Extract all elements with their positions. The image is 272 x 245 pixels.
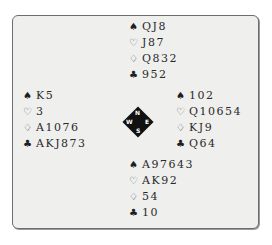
east-clubs: ♣Q64 (176, 136, 242, 152)
compass-east-label: E (145, 119, 149, 125)
heart-icon: ♡ (23, 104, 36, 120)
south-spades: ♠A97643 (129, 157, 194, 173)
north-spades: ♠QJ8 (129, 19, 178, 35)
west-spades: ♠K5 (23, 88, 87, 104)
north-hand: ♠QJ8 ♡J87 ♢Q832 ♣952 (129, 19, 178, 83)
compass-west-label: W (126, 119, 133, 125)
compass-rose: N W E S (123, 107, 153, 137)
bridge-deal-diagram: ♠QJ8 ♡J87 ♢Q832 ♣952 ♠K5 ♡3 ♢A1076 ♣AKJ8… (12, 15, 259, 229)
heart-icon: ♡ (176, 104, 189, 120)
east-hand: ♠102 ♡Q10654 ♢KJ9 ♣Q64 (176, 88, 242, 152)
north-hearts: ♡J87 (129, 35, 178, 51)
spade-icon: ♠ (129, 19, 142, 35)
east-diamonds: ♢KJ9 (176, 120, 242, 136)
compass-north-label: N (135, 110, 140, 116)
spade-icon: ♠ (176, 88, 189, 104)
east-spades: ♠102 (176, 88, 242, 104)
north-clubs: ♣952 (129, 67, 178, 83)
west-hearts: ♡3 (23, 104, 87, 120)
spade-icon: ♠ (129, 157, 142, 173)
north-diamonds: ♢Q832 (129, 51, 178, 67)
diamond-icon: ♢ (176, 120, 189, 136)
south-hand: ♠A97643 ♡AK92 ♢54 ♣10 (129, 157, 194, 221)
heart-icon: ♡ (129, 35, 142, 51)
club-icon: ♣ (23, 136, 36, 152)
spade-icon: ♠ (23, 88, 36, 104)
east-hearts: ♡Q10654 (176, 104, 242, 120)
club-icon: ♣ (176, 136, 189, 152)
club-icon: ♣ (129, 67, 142, 83)
diamond-icon: ♢ (129, 189, 142, 205)
club-icon: ♣ (129, 205, 142, 221)
south-diamonds: ♢54 (129, 189, 194, 205)
south-clubs: ♣10 (129, 205, 194, 221)
heart-icon: ♡ (129, 173, 142, 189)
west-hand: ♠K5 ♡3 ♢A1076 ♣AKJ873 (23, 88, 87, 152)
south-hearts: ♡AK92 (129, 173, 194, 189)
compass-south-label: S (136, 128, 140, 134)
west-diamonds: ♢A1076 (23, 120, 87, 136)
west-clubs: ♣AKJ873 (23, 136, 87, 152)
diamond-icon: ♢ (129, 51, 142, 67)
diamond-icon: ♢ (23, 120, 36, 136)
